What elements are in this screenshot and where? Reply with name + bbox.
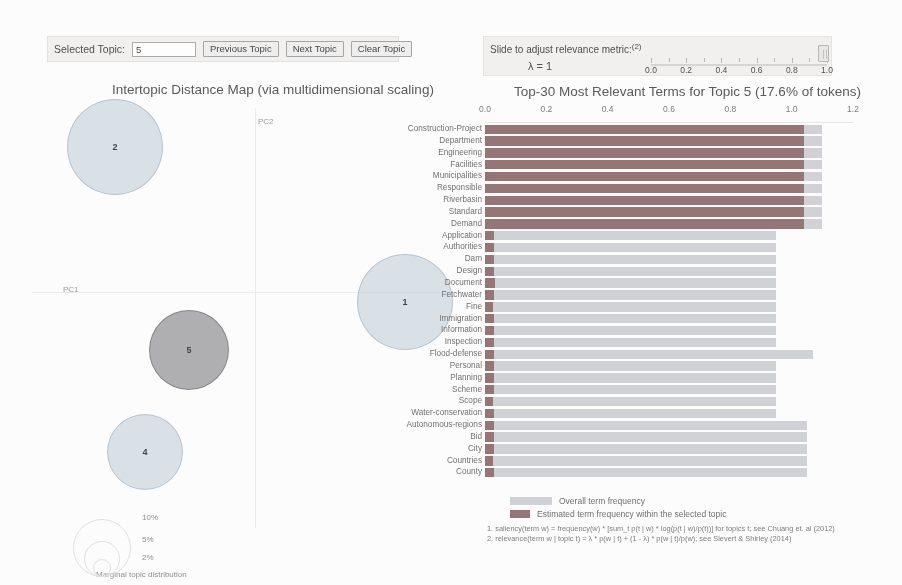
barchart-row[interactable]: Municipalities	[400, 171, 900, 183]
barchart-term-label[interactable]: Application	[442, 231, 482, 241]
barchart-term-label[interactable]: Personal	[450, 361, 482, 371]
legend-row-topic: Estimated term frequency within the sele…	[510, 507, 900, 520]
barchart-bar-track	[485, 409, 853, 418]
barchart-term-label[interactable]: Municipalities	[433, 171, 482, 181]
barchart-overall-bar	[485, 373, 776, 382]
barchart-term-label[interactable]: Autonomous-regions	[406, 420, 482, 430]
barchart-row[interactable]: Scope	[400, 396, 900, 408]
barchart-term-label[interactable]: Department	[439, 136, 482, 146]
topic-bubble-4[interactable]: 4	[107, 414, 183, 490]
barchart-row[interactable]: Dam	[400, 254, 900, 266]
slider-handle[interactable]	[818, 45, 829, 62]
next-topic-button[interactable]: Next Topic	[286, 41, 344, 57]
barchart-bar-track	[485, 290, 853, 299]
barchart-term-label[interactable]: Engineering	[438, 148, 482, 158]
previous-topic-button[interactable]: Previous Topic	[203, 41, 279, 57]
barchart-row[interactable]: Application	[400, 231, 900, 243]
barchart-row[interactable]: City	[400, 444, 900, 456]
barchart-term-label[interactable]: Responsible	[437, 183, 482, 193]
selected-topic-input[interactable]	[132, 42, 196, 57]
barchart-term-label[interactable]: Scope	[459, 396, 482, 406]
barchart-row[interactable]: Fine	[400, 302, 900, 314]
barchart-term-label[interactable]: Inspection	[445, 337, 482, 347]
barchart-bar-track	[485, 231, 853, 240]
barchart-row[interactable]: Demand	[400, 219, 900, 231]
barchart-bar-track	[485, 184, 853, 193]
barchart-topic-bar	[485, 219, 804, 228]
barchart-bar-track	[485, 207, 853, 216]
barchart-term-label[interactable]: Scheme	[452, 385, 482, 395]
barchart-row[interactable]: Autonomous-regions	[400, 420, 900, 432]
barchart-term-label[interactable]: Water-conservation	[411, 408, 482, 418]
barchart-row[interactable]: Standard	[400, 207, 900, 219]
barchart-topic-bar	[485, 172, 804, 181]
barchart-term-label[interactable]: Flood-defense	[430, 349, 482, 359]
barchart-term-label[interactable]: Countries	[447, 456, 482, 466]
barchart-topic-bar	[485, 421, 494, 430]
barchart-row[interactable]: Flood-defense	[400, 349, 900, 361]
barchart-overall-bar	[485, 243, 776, 252]
barchart-row[interactable]: County	[400, 467, 900, 479]
barchart-bar-track	[485, 468, 853, 477]
barchart-topic-bar	[485, 468, 494, 477]
barchart-bar-track	[485, 148, 853, 157]
barchart-term-label[interactable]: Standard	[449, 207, 482, 217]
barchart-row[interactable]: Facilities	[400, 160, 900, 172]
barchart-x-tick-label: 0.6	[663, 104, 675, 114]
barchart-row[interactable]: Responsible	[400, 183, 900, 195]
barchart-row[interactable]: Authorities	[400, 242, 900, 254]
barchart-row[interactable]: Document	[400, 278, 900, 290]
map-vertical-axis	[255, 108, 256, 528]
barchart-term-label[interactable]: Authorities	[443, 242, 482, 252]
barchart-row[interactable]: Engineering	[400, 148, 900, 160]
barchart-row[interactable]: Fetchwater	[400, 290, 900, 302]
barchart-term-label[interactable]: Document	[445, 278, 482, 288]
barchart-row[interactable]: Design	[400, 266, 900, 278]
slider-tick	[792, 58, 793, 63]
barchart-row[interactable]: Personal	[400, 361, 900, 373]
barchart-term-label[interactable]: City	[468, 444, 482, 454]
barchart-row[interactable]: Scheme	[400, 385, 900, 397]
barchart-row[interactable]: Immigration	[400, 314, 900, 326]
barchart-row[interactable]: Inspection	[400, 337, 900, 349]
barchart-row[interactable]: Bid	[400, 432, 900, 444]
slider-minor-tick	[774, 58, 775, 62]
topic-bubble-5[interactable]: 5	[149, 310, 229, 390]
barchart-x-tick-label: 1.2	[847, 104, 859, 114]
barchart-legend: Overall term frequency Estimated term fr…	[510, 494, 900, 520]
barchart-bar-track	[485, 350, 853, 359]
clear-topic-button[interactable]: Clear Topic	[351, 41, 412, 57]
barchart-title: Top-30 Most Relevant Terms for Topic 5 (…	[514, 84, 861, 99]
barchart-row[interactable]: Countries	[400, 456, 900, 468]
barchart-term-label[interactable]: Planning	[450, 373, 482, 383]
barchart-term-label[interactable]: Information	[441, 325, 482, 335]
barchart-term-label[interactable]: Design	[457, 266, 483, 276]
barchart-row[interactable]: Information	[400, 325, 900, 337]
barchart-term-label[interactable]: Bid	[470, 432, 482, 442]
barchart-term-label[interactable]: Demand	[451, 219, 482, 229]
barchart-term-label[interactable]: Dam	[465, 254, 482, 264]
barchart-row[interactable]: Water-conservation	[400, 408, 900, 420]
barchart-topic-bar	[485, 409, 494, 418]
barchart-bar-track	[485, 172, 853, 181]
barchart-overall-bar	[485, 409, 776, 418]
barchart-term-label[interactable]: Fetchwater	[442, 290, 483, 300]
barchart-term-label[interactable]: Riverbasin	[443, 195, 482, 205]
barchart-row[interactable]: Planning	[400, 373, 900, 385]
barchart-bar-track	[485, 278, 853, 287]
barchart-term-label[interactable]: Fine	[466, 302, 482, 312]
lambda-value-label: λ = 1	[528, 60, 552, 72]
topic-bubble-2[interactable]: 2	[67, 99, 163, 195]
barchart-term-label[interactable]: Facilities	[450, 160, 482, 170]
barchart-row[interactable]: Riverbasin	[400, 195, 900, 207]
barchart-term-label[interactable]: County	[456, 467, 482, 477]
barchart-topic-bar	[485, 385, 494, 394]
barchart-topic-bar	[485, 243, 494, 252]
barchart-x-tick-label: 0.8	[724, 104, 736, 114]
barchart-row[interactable]: Department	[400, 136, 900, 148]
barchart-term-label[interactable]: Immigration	[439, 314, 482, 324]
slider-tick-label: 0.8	[786, 65, 798, 75]
barchart-row[interactable]: Construction-Project	[400, 124, 900, 136]
barchart-term-label[interactable]: Construction-Project	[408, 124, 482, 134]
intertopic-map-title: Intertopic Distance Map (via multidimens…	[112, 82, 434, 97]
